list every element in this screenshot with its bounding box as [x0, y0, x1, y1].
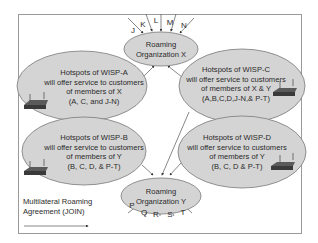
wisp-d-line3: of members of Y [187, 152, 286, 162]
wisp-d-line1: Hotspots of WISP-D [187, 133, 286, 143]
org-x-label: Roaming Organization X [136, 40, 186, 59]
wisp-b-line2: will offer service to customers [44, 143, 143, 153]
wisp-b-line4: (B, C, D, & P-T) [44, 162, 143, 172]
wisp-b-label: Hotspots of WISP-B will offer service to… [44, 133, 143, 171]
wisp-c-label: Hotspots of WISP-C will offer service to… [186, 65, 285, 103]
member-q: Q [141, 208, 147, 217]
legend-line1: Multilateral Roaming [23, 197, 92, 207]
org-y-label: Roaming Organization Y [136, 187, 186, 206]
wisp-a-line2: will offer service to customers [44, 78, 143, 88]
member-l: L [154, 16, 158, 25]
wisp-c-line2: will offer service to customers [186, 75, 285, 85]
wisp-a-line1: Hotspots of WISP-A [44, 68, 143, 78]
legend: Multilateral Roaming Agreement (JOIN) [23, 197, 92, 216]
member-r: R [153, 210, 159, 219]
member-p: P [129, 201, 134, 210]
wisp-d-line2: will offer service to customers [187, 143, 286, 153]
wisp-b-line3: of members of Y [44, 152, 143, 162]
member-m: M [167, 18, 174, 27]
wisp-b-line1: Hotspots of WISP-B [44, 133, 143, 143]
wisp-c-line3: of members of X & Y [186, 84, 285, 94]
member-n: N [181, 21, 187, 30]
wisp-a-line3: of members of X [44, 87, 143, 97]
member-k: K [140, 20, 145, 29]
org-x-line2: Organization X [136, 50, 186, 60]
org-y-line2: Organization Y [136, 197, 186, 207]
wisp-a-label: Hotspots of WISP-A will offer service to… [44, 68, 143, 106]
wisp-d-label: Hotspots of WISP-D will offer service to… [187, 133, 286, 171]
org-y-line1: Roaming [136, 187, 186, 197]
legend-line2: Agreement (JOIN) [23, 207, 92, 217]
roaming-diagram: Roaming Organization X Hotspots of WISP-… [0, 0, 318, 243]
wisp-d-line4: (B, C, D & P-T) [187, 162, 286, 172]
org-x-line1: Roaming [136, 40, 186, 50]
member-t: T [181, 208, 186, 217]
member-j: J [131, 26, 135, 35]
member-s: S [167, 210, 172, 219]
wisp-a-line4: (A, C, and J-N) [44, 97, 143, 107]
wisp-c-line1: Hotspots of WISP-C [186, 65, 285, 75]
wisp-c-line4: (A,B,C,D,J-N,& P-T) [186, 94, 285, 104]
